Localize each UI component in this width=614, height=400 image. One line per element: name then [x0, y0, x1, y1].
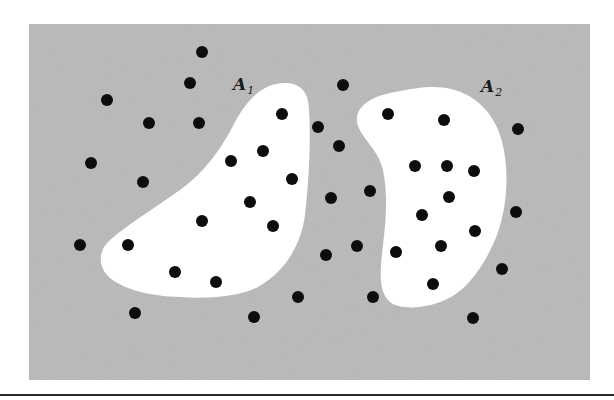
point-in-a1: [244, 196, 256, 208]
point-outside: [137, 176, 149, 188]
point-outside: [367, 291, 379, 303]
point-outside: [351, 240, 363, 252]
point-in-a1: [196, 215, 208, 227]
point-in-a1: [210, 276, 222, 288]
point-in-a1: [267, 220, 279, 232]
point-outside: [496, 263, 508, 275]
point-outside: [184, 77, 196, 89]
point-outside: [312, 121, 324, 133]
point-outside: [364, 185, 376, 197]
point-outside: [467, 312, 479, 324]
point-in-a1: [225, 155, 237, 167]
point-outside: [248, 311, 260, 323]
point-in-a2: [435, 240, 447, 252]
point-in-a1: [169, 266, 181, 278]
point-in-a2: [390, 246, 402, 258]
point-in-a2: [438, 114, 450, 126]
point-outside: [129, 307, 141, 319]
universe-field: [29, 24, 590, 380]
point-outside: [85, 157, 97, 169]
point-in-a2: [468, 165, 480, 177]
point-in-a1: [286, 173, 298, 185]
point-outside: [101, 94, 113, 106]
region-label-subscript: 1: [247, 84, 254, 97]
point-in-a1: [122, 239, 134, 251]
point-outside: [193, 117, 205, 129]
point-in-a2: [416, 209, 428, 221]
point-in-a2: [469, 225, 481, 237]
point-in-a2: [409, 160, 421, 172]
point-outside: [512, 123, 524, 135]
point-in-a2: [382, 108, 394, 120]
point-in-a1: [257, 145, 269, 157]
point-outside: [143, 117, 155, 129]
point-in-a2: [427, 278, 439, 290]
point-outside: [196, 46, 208, 58]
point-outside: [333, 140, 345, 152]
set-diagram: A1A2: [0, 0, 614, 400]
point-in-a1: [276, 108, 288, 120]
point-in-a2: [443, 191, 455, 203]
point-outside: [325, 192, 337, 204]
point-outside: [74, 239, 86, 251]
point-outside: [320, 249, 332, 261]
point-outside: [337, 79, 349, 91]
point-in-a2: [441, 160, 453, 172]
point-outside: [292, 291, 304, 303]
point-outside: [510, 206, 522, 218]
region-label-subscript: 2: [494, 86, 502, 99]
